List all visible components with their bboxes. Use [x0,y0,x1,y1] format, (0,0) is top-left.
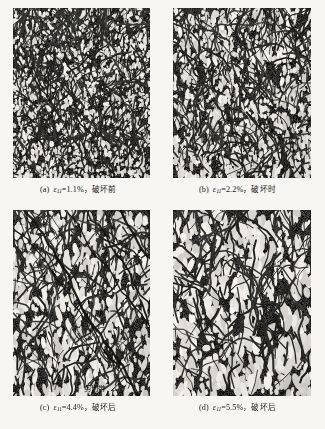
caption-state-c: 破坏后 [92,403,116,412]
micrograph-canvas-c [13,210,150,396]
caption-state-a: 破坏前 [92,185,116,194]
strain-value-b: 2.2% [226,185,243,194]
micrograph-panel-b [173,8,311,178]
caption-tag-a: (a) [40,185,49,194]
strain-value-a: 1.1% [66,185,83,194]
caption-tag-c: (c) [40,403,49,412]
caption-panel-b: (b)ε11=2.2%，破坏时 [199,186,276,195]
micrograph-canvas-b [173,8,311,178]
strain-value-d: 5.5% [226,403,243,412]
caption-separator-a: ， [84,185,92,194]
shear-band-annotation-label: 剪切带 [84,385,105,392]
caption-tag-b: (b) [199,185,209,194]
caption-panel-a: (a)ε11=1.1%，破坏前 [40,186,116,195]
micrograph-panel-a [13,8,150,178]
caption-state-d: 破坏后 [251,403,275,412]
figure-panel-grid: (a)ε11=1.1%，破坏前 (b)ε11=2.2%，破坏时 剪切带 (c)ε… [0,0,325,429]
caption-panel-c: (c)ε11=4.4%，破坏后 [40,404,116,413]
micrograph-panel-d [173,210,311,396]
strain-value-c: 4.4% [66,403,83,412]
caption-state-b: 破坏时 [251,185,275,194]
micrograph-canvas-d [173,210,311,396]
caption-panel-d: (d)ε11=5.5%，破坏后 [199,404,276,413]
micrograph-canvas-a [13,8,150,178]
caption-separator-c: ， [84,403,92,412]
caption-tag-d: (d) [199,403,209,412]
micrograph-panel-c [13,210,150,396]
